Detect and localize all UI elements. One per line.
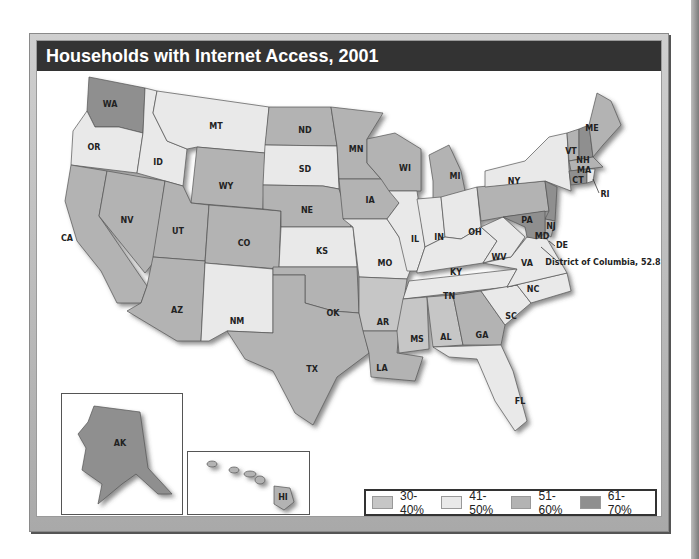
page-edge — [691, 0, 699, 559]
svg-text:AK: AK — [114, 439, 127, 448]
svg-text:KY: KY — [450, 268, 462, 277]
dc-callout-label: District of Columbia, 52.8 — [545, 258, 661, 267]
svg-text:MN: MN — [349, 145, 364, 154]
state-nm — [201, 263, 273, 341]
legend-swatch — [372, 496, 393, 509]
svg-text:AR: AR — [377, 318, 389, 327]
svg-text:MA: MA — [577, 166, 592, 175]
hawaii-map: HI — [188, 452, 309, 514]
svg-text:MT: MT — [209, 122, 223, 131]
svg-text:MO: MO — [378, 259, 393, 268]
svg-text:IL: IL — [411, 235, 419, 244]
svg-text:ND: ND — [298, 126, 312, 135]
svg-text:WA: WA — [103, 100, 118, 109]
svg-text:NC: NC — [527, 285, 540, 294]
hawaii-inset: HI — [187, 451, 310, 515]
state-fl — [433, 345, 527, 431]
svg-text:CO: CO — [238, 239, 251, 248]
map-figure-frame: Households with Internet Access, 2001 — [29, 33, 669, 532]
svg-text:TN: TN — [443, 292, 455, 301]
svg-text:OR: OR — [88, 143, 101, 152]
svg-text:IA: IA — [365, 196, 375, 205]
svg-text:FL: FL — [515, 397, 526, 406]
svg-text:ME: ME — [585, 124, 598, 133]
svg-text:OK: OK — [327, 309, 341, 318]
svg-text:MS: MS — [410, 335, 424, 344]
state-ms — [397, 297, 429, 353]
legend-swatch — [441, 496, 462, 509]
svg-text:NM: NM — [230, 317, 245, 326]
svg-text:DE: DE — [556, 241, 568, 250]
svg-text:WI: WI — [399, 164, 411, 173]
legend-item-30-40: 30-40% — [372, 489, 441, 517]
svg-text:NE: NE — [301, 206, 313, 215]
svg-text:IN: IN — [434, 233, 444, 242]
legend-item-51-60: 51-60% — [511, 489, 580, 517]
svg-text:HI: HI — [278, 493, 288, 502]
state-co — [205, 205, 281, 269]
alaska-map: AK — [62, 394, 182, 514]
svg-text:GA: GA — [476, 331, 490, 340]
svg-text:SC: SC — [505, 312, 517, 321]
state-ak — [78, 406, 172, 504]
state-ny — [485, 133, 571, 191]
svg-text:VT: VT — [565, 147, 577, 156]
legend-swatch — [511, 496, 532, 509]
svg-text:NJ: NJ — [546, 222, 556, 231]
svg-text:SD: SD — [299, 165, 312, 174]
svg-text:AZ: AZ — [171, 306, 183, 315]
legend-item-41-50: 41-50% — [441, 489, 510, 517]
svg-text:WV: WV — [491, 253, 507, 262]
svg-text:OH: OH — [468, 228, 482, 237]
svg-text:VA: VA — [521, 259, 534, 268]
alaska-inset: AK — [61, 393, 183, 515]
svg-text:TX: TX — [306, 365, 318, 374]
map-panel: Households with Internet Access, 2001 — [36, 40, 662, 517]
svg-text:UT: UT — [172, 227, 184, 236]
svg-text:CA: CA — [61, 234, 74, 243]
svg-text:AL: AL — [440, 333, 451, 342]
svg-text:MD: MD — [535, 232, 550, 241]
svg-text:MI: MI — [450, 172, 461, 181]
svg-text:ID: ID — [153, 158, 163, 167]
svg-text:RI: RI — [600, 190, 609, 199]
legend-item-61-70: 61-70% — [580, 489, 649, 517]
svg-text:NV: NV — [121, 216, 135, 225]
svg-text:PA: PA — [521, 216, 533, 225]
map-legend: 30-40% 41-50% 51-60% 61-70% — [364, 489, 657, 516]
svg-text:WY: WY — [219, 182, 234, 191]
svg-text:NH: NH — [576, 156, 589, 165]
svg-text:NY: NY — [508, 177, 521, 186]
svg-text:KS: KS — [316, 247, 328, 256]
svg-text:CT: CT — [572, 176, 584, 185]
state-wy — [191, 147, 265, 209]
legend-swatch — [580, 496, 601, 509]
svg-text:LA: LA — [376, 364, 388, 373]
